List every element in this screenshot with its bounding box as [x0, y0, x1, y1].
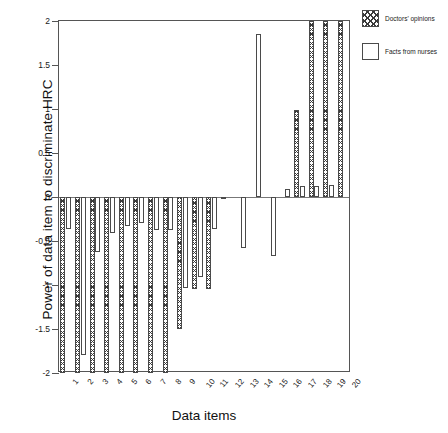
plot-area: 21.510.50-0.5-1-1.5-2: [58, 20, 350, 372]
bar-facts-from-nurses-item-4: [110, 197, 115, 233]
bar-doctors-opinions-item-11: [206, 197, 211, 289]
x-tick-label: 14: [262, 377, 275, 390]
bar-facts-from-nurses-item-3: [95, 197, 100, 252]
bar-doctors-opinions-item-18: [309, 21, 314, 197]
y-tick-mark: [52, 241, 59, 242]
bar-facts-from-nurses-item-7: [154, 197, 159, 230]
x-tick-label: 11: [218, 377, 230, 389]
bar-facts-from-nurses-item-11: [212, 197, 217, 229]
x-tick-label: 4: [115, 377, 125, 386]
bar-facts-from-nurses-item-9: [183, 197, 188, 288]
legend-label: Doctors' opinions: [385, 15, 435, 22]
bar-doctors-opinions-item-2: [75, 197, 80, 373]
x-tick-label: 10: [204, 377, 217, 390]
legend-swatch-doctors: [362, 10, 379, 27]
bar-facts-from-nurses-item-1: [66, 197, 71, 229]
legend-item-doctors: Doctors' opinions: [362, 10, 446, 27]
x-tick-label: 16: [291, 377, 304, 390]
bar-doctors-opinions-item-1: [60, 197, 65, 373]
bar-facts-from-nurses-item-15: [271, 197, 276, 256]
bar-doctors-opinions-item-19: [323, 21, 328, 197]
bar-doctors-opinions-item-17: [294, 110, 299, 197]
bar-facts-from-nurses-item-2: [81, 197, 86, 355]
bar-facts-from-nurses-item-17: [300, 186, 305, 197]
legend-item-nurses: Facts from nurses: [362, 43, 446, 60]
x-tick-label: 13: [248, 377, 261, 390]
x-tick-label: 3: [100, 377, 110, 386]
bar-doctors-opinions-item-4: [104, 197, 109, 373]
x-tick-label: 7: [158, 377, 168, 386]
bar-doctors-opinions-item-7: [148, 197, 153, 373]
y-tick-mark: [52, 329, 59, 330]
y-tick-label: -0.5: [35, 236, 50, 246]
bar-facts-from-nurses-item-18: [314, 186, 319, 197]
zero-baseline: [59, 197, 349, 198]
bar-facts-from-nurses-item-16: [285, 189, 290, 197]
bar-doctors-opinions-item-20: [338, 21, 343, 197]
y-tick-label: 0: [45, 192, 50, 202]
y-tick-label: -1.5: [35, 324, 50, 334]
x-axis-title: Data items: [58, 408, 350, 423]
y-tick-mark: [52, 21, 59, 22]
y-tick-mark: [52, 109, 59, 110]
bar-doctors-opinions-item-6: [133, 197, 138, 373]
bar-doctors-opinions-item-5: [119, 197, 124, 373]
x-tick-label: 2: [85, 377, 95, 386]
bar-doctors-opinions-item-12: [221, 197, 226, 199]
x-tick-label: 5: [129, 377, 139, 386]
y-tick-mark: [52, 373, 59, 374]
x-tick-label: 8: [173, 377, 183, 386]
bar-facts-from-nurses-item-6: [139, 197, 144, 223]
y-tick-label: -2: [42, 368, 50, 378]
x-tick-label: 9: [188, 377, 198, 386]
x-tick-label: 1: [71, 377, 81, 386]
y-tick-label: 2: [45, 16, 50, 26]
bar-facts-from-nurses-item-13: [241, 197, 246, 248]
y-tick-mark: [52, 197, 59, 198]
x-tick-label: 6: [144, 377, 154, 386]
chart-legend: Doctors' opinionsFacts from nurses: [362, 10, 446, 76]
x-tick-label: 19: [335, 377, 348, 390]
y-tick-label: 1: [45, 104, 50, 114]
bar-facts-from-nurses-item-10: [198, 197, 203, 277]
bar-doctors-opinions-item-9: [177, 197, 182, 329]
bar-facts-from-nurses-item-14: [256, 34, 261, 197]
x-tick-label: 20: [350, 377, 363, 390]
x-tick-label: 17: [306, 377, 319, 390]
bar-facts-from-nurses-item-5: [125, 197, 130, 226]
bar-doctors-opinions-item-8: [163, 197, 168, 373]
bar-facts-from-nurses-item-19: [329, 185, 334, 197]
y-tick-label: 1.5: [38, 60, 50, 70]
y-tick-label: -1: [42, 280, 50, 290]
legend-label: Facts from nurses: [385, 48, 437, 55]
y-tick-mark: [52, 285, 59, 286]
bar-doctors-opinions-item-10: [192, 197, 197, 289]
x-tick-label: 15: [277, 377, 290, 390]
y-tick-mark: [52, 65, 59, 66]
legend-swatch-nurses: [362, 43, 379, 60]
bar-doctors-opinions-item-3: [90, 197, 95, 373]
bar-facts-from-nurses-item-8: [168, 197, 173, 230]
chart-figure: Power of data item to discriminate HRC 2…: [0, 0, 448, 433]
y-tick-label: 0.5: [38, 148, 50, 158]
x-tick-label: 12: [233, 377, 246, 390]
x-tick-label: 18: [321, 377, 334, 390]
y-tick-mark: [52, 153, 59, 154]
